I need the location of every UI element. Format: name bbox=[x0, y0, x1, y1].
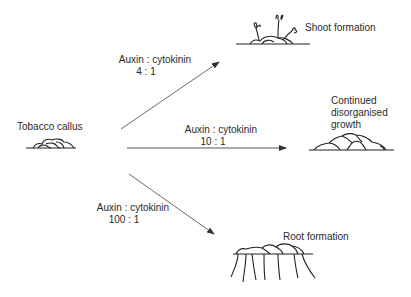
shoot-icon bbox=[236, 15, 310, 44]
ratio-label-shoot: Auxin : cytokinin 4 : 1 bbox=[100, 54, 210, 78]
callus-icon bbox=[26, 139, 76, 148]
ratio-text: Auxin : cytokinin bbox=[100, 54, 210, 66]
outcome-line: growth bbox=[331, 119, 388, 131]
ratio-text: Auxin : cytokinin bbox=[166, 124, 276, 136]
ratio-value: 100 : 1 bbox=[78, 214, 188, 226]
ratio-value: 10 : 1 bbox=[166, 136, 276, 148]
ratio-label-growth: Auxin : cytokinin 10 : 1 bbox=[166, 124, 276, 148]
disorganised-growth-icon bbox=[309, 134, 394, 150]
diagram-canvas bbox=[0, 0, 411, 297]
outcome-line: disorganised bbox=[331, 107, 388, 119]
source-label: Tobacco callus bbox=[17, 121, 83, 133]
ratio-value: 4 : 1 bbox=[100, 66, 210, 78]
outcome-root: Root formation bbox=[283, 231, 349, 243]
root-icon bbox=[231, 244, 315, 282]
outcome-growth: Continued disorganised growth bbox=[331, 95, 388, 131]
ratio-label-root: Auxin : cytokinin 100 : 1 bbox=[78, 202, 188, 226]
outcome-line: Continued bbox=[331, 95, 388, 107]
ratio-text: Auxin : cytokinin bbox=[78, 202, 188, 214]
outcome-shoot: Shoot formation bbox=[305, 22, 376, 34]
